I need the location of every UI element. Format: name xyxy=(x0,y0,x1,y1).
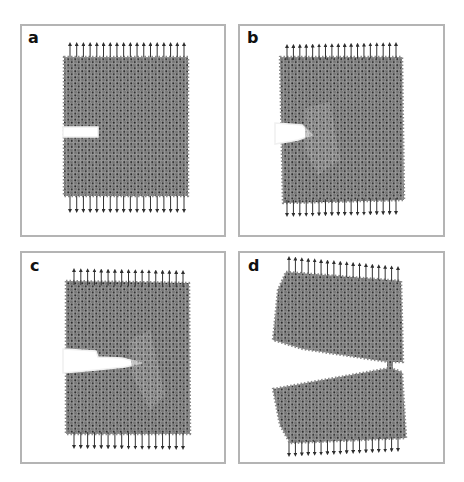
lattice-upper-d xyxy=(273,272,403,362)
bridge-d xyxy=(387,360,393,371)
lattice-lower-d xyxy=(273,368,406,443)
crack-a xyxy=(63,127,98,137)
top-force-arrows-a xyxy=(70,44,184,57)
simulation-graphics xyxy=(0,0,464,482)
bottom-force-arrows-c xyxy=(74,432,183,448)
bottom-force-arrows-a xyxy=(70,196,184,211)
